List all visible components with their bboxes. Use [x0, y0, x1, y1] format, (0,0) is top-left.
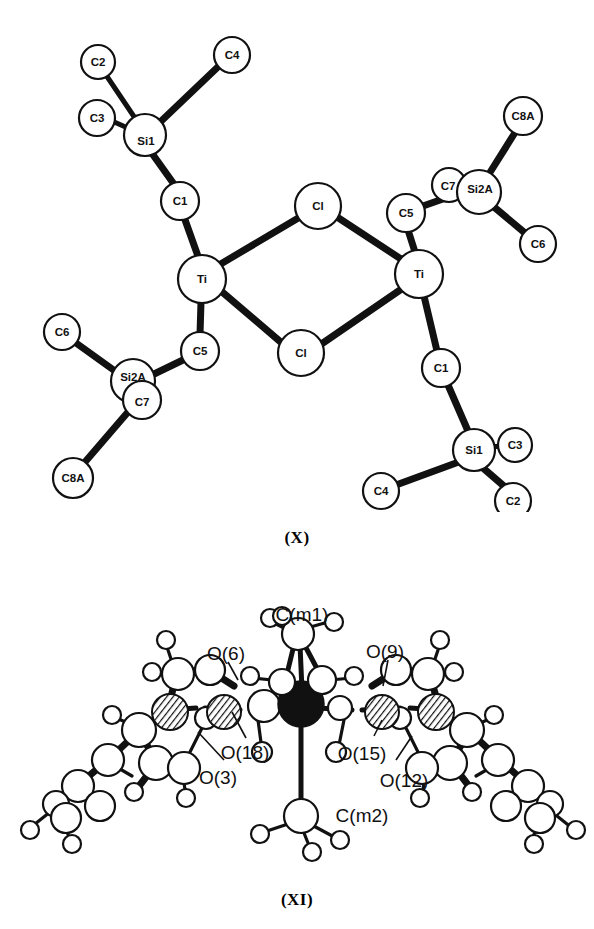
- atom-c5-right: C5: [387, 194, 425, 232]
- atom-label-c3-top: C3: [90, 112, 105, 124]
- bond-si1-c4-bottom: [396, 463, 456, 485]
- atom-xi-open: [308, 666, 336, 694]
- atom-xi-open: [445, 663, 463, 681]
- atom-xi-open: [411, 789, 429, 807]
- atom-label-c8a-right: C8A: [511, 110, 534, 122]
- molecular-diagram-x: C2 C4 C3 Si1 C1: [0, 0, 594, 512]
- atom-xi-open: [92, 744, 124, 776]
- atom-label-ti-left: Ti: [197, 273, 207, 285]
- bond-si2a-right-c8a: [489, 131, 516, 174]
- atom-c2-bottom: C2: [495, 483, 531, 512]
- bond-ti-left-cl-lower: [221, 291, 283, 344]
- atom-xi-hatched: [152, 694, 188, 730]
- atom-xi-open: [412, 658, 444, 690]
- atom-label-c7-left: C7: [135, 396, 150, 408]
- atom-c7-left: C7: [123, 381, 161, 419]
- atom-xi-open: [122, 713, 156, 747]
- bond-si1-c1-top: [151, 152, 176, 187]
- bond-ti-left-cl-upper: [219, 217, 300, 265]
- atom-xi-open: [345, 667, 363, 685]
- leader-o6: [228, 662, 238, 680]
- atom-xi-open: [125, 783, 143, 801]
- atom-xi-open: [525, 803, 555, 833]
- atom-label-c7-right: C7: [441, 180, 456, 192]
- atom-si2a-right: Si2A: [457, 170, 501, 214]
- atom-c4-top: C4: [214, 37, 250, 73]
- atom-xi-open: [85, 791, 115, 821]
- atom-si1-bottom: Si1: [453, 429, 495, 471]
- atom-xi-open: [482, 744, 514, 776]
- molecular-diagram-xi: C(m1) O(6) O(9) O(18) O(15) O(3) O(12) C…: [0, 560, 594, 870]
- atom-c1-top: C1: [161, 182, 199, 220]
- callout-cm1: C(m1): [276, 604, 329, 625]
- atom-xi-hatched: [365, 695, 399, 729]
- atom-xi-open: [51, 803, 81, 833]
- atom-ti-right: Ti: [395, 250, 443, 298]
- atom-label-c3-bottom: C3: [508, 439, 523, 451]
- bond-si2a-left-c6: [76, 343, 115, 371]
- atom-xi-open: [485, 706, 503, 724]
- figure-x-caption: (X): [0, 528, 594, 548]
- atom-xi-open: [463, 783, 481, 801]
- bond-si1-c2-bottom: [483, 468, 505, 487]
- figure-x-container: C2 C4 C3 Si1 C1: [0, 0, 594, 560]
- atom-xi-open: [143, 663, 161, 681]
- atom-label-si1-top: Si1: [137, 135, 155, 147]
- atom-xi-open: [328, 696, 352, 720]
- atom-label-si1-bottom: Si1: [465, 444, 483, 456]
- atom-label-c1-top: C1: [173, 195, 188, 207]
- atom-xi-cm2: [284, 799, 318, 833]
- callout-o3: O(3): [199, 767, 237, 788]
- atom-xi-open: [168, 752, 200, 784]
- atom-label-cl-upper: Cl: [312, 200, 324, 212]
- figure-page: C2 C4 C3 Si1 C1: [0, 0, 594, 929]
- atom-xi-open: [431, 631, 449, 649]
- callout-o18: O(18): [221, 742, 270, 763]
- atom-c6-left: C6: [44, 314, 80, 350]
- bond-ti-left-c5: [200, 302, 201, 334]
- figure-xi-container: C(m1) O(6) O(9) O(18) O(15) O(3) O(12) C…: [0, 560, 594, 929]
- bond-c1-ti-left: [184, 217, 199, 259]
- bond-c5-si2a-left: [152, 360, 183, 375]
- atom-label-c4-bottom: C4: [374, 485, 389, 497]
- atom-c5-left: C5: [181, 332, 219, 370]
- callout-o9: O(9): [366, 641, 404, 662]
- atom-xi-open: [450, 713, 484, 747]
- atom-xi-open: [162, 658, 194, 690]
- atom-label-cl-lower: Cl: [295, 347, 307, 359]
- callout-o12: O(12): [380, 770, 429, 791]
- atom-xi-hatched: [207, 695, 241, 729]
- atom-ti-left: Ti: [178, 255, 226, 303]
- atom-c8a-right: C8A: [504, 97, 542, 135]
- atom-xi-open: [491, 791, 521, 821]
- atom-label-c2-top: C2: [91, 56, 106, 68]
- atom-xi-open: [567, 821, 585, 839]
- atom-cl-upper: Cl: [295, 183, 341, 229]
- atom-c1-bottom: C1: [422, 349, 460, 387]
- atom-xi-open: [157, 631, 175, 649]
- callout-o15: O(15): [338, 743, 387, 764]
- atom-xi-open: [103, 706, 121, 724]
- atom-xi-open: [63, 835, 81, 853]
- atom-label-ti-right: Ti: [414, 268, 424, 280]
- atom-xi-open: [21, 821, 39, 839]
- atom-label-c1-bottom: C1: [434, 362, 449, 374]
- atom-label-c2-bottom: C2: [506, 495, 521, 507]
- bond-c4-si1-top: [156, 64, 221, 126]
- atom-label-c4-top: C4: [225, 49, 240, 61]
- bond-si2a-right-c6: [494, 207, 525, 233]
- atom-c6-right: C6: [520, 226, 556, 262]
- atom-c4-bottom: C4: [363, 473, 399, 509]
- callout-o6: O(6): [207, 643, 245, 664]
- atom-xi-open: [525, 835, 543, 853]
- atom-xi-open: [269, 669, 295, 695]
- atom-group-x: C2 C4 C3 Si1 C1: [44, 37, 556, 512]
- atom-c2-top: C2: [81, 45, 115, 79]
- atom-label-c5-right: C5: [399, 207, 414, 219]
- bond-ti-right-c5: [408, 230, 415, 252]
- atom-label-c8a-left: C8A: [61, 472, 84, 484]
- callout-cm2: C(m2): [336, 805, 389, 826]
- atom-label-c6-right: C6: [531, 238, 546, 250]
- bond-c1-si1-bottom: [448, 385, 468, 431]
- atom-xi-open: [241, 667, 259, 685]
